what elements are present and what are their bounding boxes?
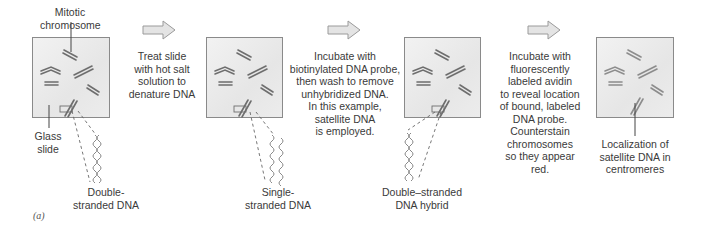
label-mitotic-chromosome: Mitotic chromosome [40, 6, 100, 31]
arrow-icon-3 [528, 21, 560, 39]
chromosomes-slide-1 [41, 50, 99, 117]
arrow-icon-1 [143, 21, 175, 39]
label-double-stranded-hybrid: Double–stranded DNA hybrid [380, 186, 464, 211]
arrow-icon-2 [328, 21, 360, 39]
panel-label: (a) [33, 210, 45, 221]
step-text-denature: Treat slide with hot salt solution to de… [120, 50, 204, 100]
chromosomes-slide-2 [215, 50, 273, 117]
zoom-lines-1 [72, 111, 96, 182]
label-double-stranded-dna: Double- stranded DNA [66, 186, 146, 211]
zoom-lines-3 [408, 112, 441, 180]
single-strand-icon [270, 135, 283, 186]
label-glass-slide: Glass slide [30, 130, 66, 155]
hybrid-helix-icon [405, 133, 413, 181]
label-single-stranded-dna: Single- stranded DNA [238, 186, 318, 211]
chromosomes-slide-3 [413, 50, 471, 117]
label-localization: Localization of satellite DNA in centrom… [590, 138, 680, 176]
step-text-avidin: Incubate with fluorescently labeled avid… [494, 50, 586, 175]
step-text-probe: Incubate with biotinylated DNA probe, th… [283, 50, 407, 138]
chromosomes-slide-4 [605, 50, 663, 115]
double-helix-icon [93, 135, 101, 183]
